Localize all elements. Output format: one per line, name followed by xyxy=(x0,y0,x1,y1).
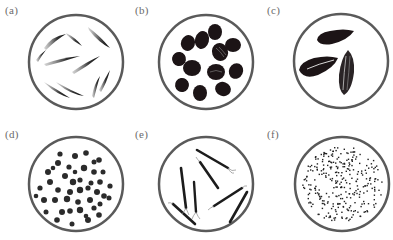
panel-a: (a) xyxy=(0,0,131,120)
dish-f-dust-seeds-icon xyxy=(262,120,393,240)
dish-b-dark-ovoid-seeds-icon xyxy=(130,0,261,120)
dish-a-thin-curved-seeds-icon xyxy=(0,0,131,120)
panel-d: (d) xyxy=(0,120,131,240)
panel-f: (f) xyxy=(262,120,393,240)
dish-d-small-round-seeds-icon xyxy=(0,120,131,240)
dish-c-sunflower-seeds-icon xyxy=(262,0,393,120)
panel-c: (c) xyxy=(262,0,393,120)
panel-b: (b) xyxy=(130,0,261,120)
dish-e-needle-seeds-icon xyxy=(130,120,261,240)
panel-e: (e) xyxy=(130,120,261,240)
